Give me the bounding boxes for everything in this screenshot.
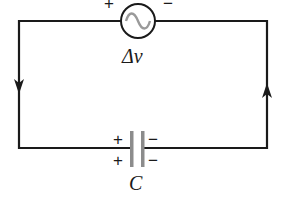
source-minus-sign: − xyxy=(163,0,173,13)
capacitor-minus-bottom: − xyxy=(148,151,158,170)
circuit-diagram: + − Δv + + − − C xyxy=(0,0,285,205)
wire-top-right xyxy=(144,21,267,148)
capacitor-label: C xyxy=(129,172,143,194)
source-plus-sign: + xyxy=(104,0,114,13)
capacitor-plus-top: + xyxy=(113,130,123,149)
capacitor-plate-left xyxy=(130,131,134,167)
source-label: Δv xyxy=(121,45,143,67)
capacitor-plus-bottom: + xyxy=(113,151,123,170)
capacitor-minus-top: − xyxy=(148,130,158,149)
ac-source xyxy=(121,4,155,38)
capacitor-plate-right xyxy=(141,131,145,167)
wire-top-left xyxy=(19,21,130,148)
capacitor xyxy=(130,131,145,167)
